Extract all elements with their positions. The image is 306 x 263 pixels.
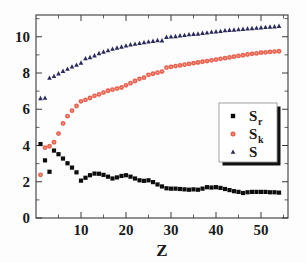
false [220,58,222,60]
false [47,170,51,174]
false [107,90,109,92]
false [178,187,182,191]
false [179,65,181,67]
false [151,180,155,184]
false [44,147,46,149]
false [94,95,96,97]
figure-container: 0246810 1020304050 Z SrSkS [0,0,306,263]
false [88,173,92,177]
false [40,174,42,176]
false [103,92,105,94]
false [146,178,150,182]
x-tick-label: 40 [209,222,224,238]
false [115,175,119,179]
false [112,89,114,91]
false [152,73,154,75]
false [197,62,199,64]
false [61,156,65,160]
false [193,62,195,64]
false [272,190,276,194]
false [80,100,82,102]
y-tick-label: 10 [15,29,30,45]
false [191,187,195,191]
y-tick-label: 8 [23,65,31,81]
false [187,188,191,192]
false [166,67,168,69]
false [227,188,231,192]
false [164,186,168,190]
false [215,59,217,61]
false [263,190,267,194]
false [121,87,123,89]
false [202,61,204,63]
false [139,78,141,80]
x-tick-label: 10 [74,222,89,238]
false [184,64,186,66]
false [211,59,213,61]
false [205,185,209,189]
false [232,133,234,135]
false [110,176,114,180]
false [43,158,47,162]
y-tick-label: 2 [23,174,31,190]
false [229,57,231,59]
legend-label: S [249,126,257,142]
false [134,80,136,82]
false [265,52,267,54]
false [242,54,244,56]
false [214,185,218,189]
false [85,99,87,101]
false [53,141,55,143]
false [70,166,74,170]
false [256,53,258,55]
x-tick-label: 30 [164,222,179,238]
legend-label: S [249,144,257,160]
false [65,161,69,165]
false [169,187,173,191]
false [188,63,190,65]
false [83,176,87,180]
false [92,171,96,175]
chart-legend[interactable]: SrSkS [219,103,281,166]
false [67,115,69,117]
false [277,191,281,195]
false [250,190,254,194]
false [89,97,91,99]
false [259,190,263,194]
false [196,188,200,192]
false [71,110,73,112]
false [236,190,240,194]
false [76,105,78,107]
false [128,175,132,179]
false [182,187,186,191]
false [209,185,213,189]
false [56,152,60,156]
false [62,123,64,125]
legend-sublabel: k [258,134,264,145]
false [238,55,240,57]
false [206,60,208,62]
false [247,54,249,56]
false [79,179,83,183]
false [143,77,145,79]
false [74,170,78,174]
false [161,71,163,73]
false [218,186,222,190]
false [278,50,280,52]
false [98,94,100,96]
false [58,133,60,135]
false [200,187,204,191]
false [142,179,146,183]
false [233,56,235,58]
y-tick-label: 0 [23,210,31,226]
false [260,52,262,54]
false [157,72,159,74]
scatter-plot: 0246810 1020304050 Z SrSkS [0,0,306,263]
false [155,182,159,186]
x-tick-label: 50 [254,222,269,238]
false [119,174,123,178]
false [137,178,141,182]
x-axis-title: Z [156,241,167,260]
false [251,53,253,55]
false [170,66,172,68]
